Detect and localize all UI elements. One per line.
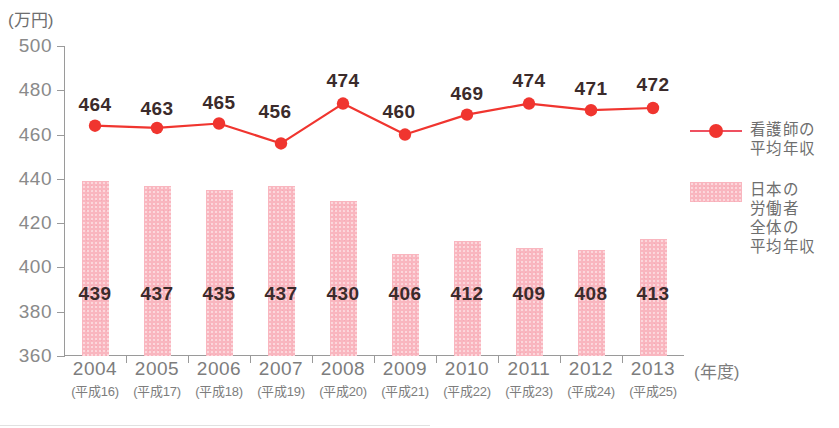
line-data-point [337, 97, 349, 109]
x-axis-category-label: 2011(平成23) [505, 358, 552, 400]
nurse-salary-chart: (万円) 360380400420440460480500 4644634654… [0, 0, 839, 428]
bar-value-label: 430 [326, 283, 359, 305]
x-axis-unit-label: (年度) [694, 358, 739, 383]
x-axis-era: (平成21) [381, 381, 428, 400]
y-axis-tick-label: 380 [6, 301, 52, 323]
line-data-point [89, 120, 101, 132]
x-axis-year: 2006 [195, 358, 242, 380]
x-axis-year: 2008 [319, 358, 366, 380]
line-value-label: 471 [574, 78, 607, 100]
x-axis-year: 2010 [443, 358, 490, 380]
x-axis-category-label: 2006(平成18) [195, 358, 242, 400]
scan-edge-line [0, 425, 430, 426]
y-axis-tick-mark [57, 356, 65, 357]
bar-value-label: 408 [574, 283, 607, 305]
line-data-point [151, 122, 163, 134]
chart-legend: 看護師の 平均年収 日本の 労働者 全体の 平均年収 [690, 120, 839, 278]
x-axis-year: 2013 [629, 358, 676, 380]
line-data-point [399, 128, 411, 140]
legend-bar-swatch-icon [690, 180, 742, 202]
x-axis-era: (平成23) [505, 381, 552, 400]
x-axis-category-label: 2004(平成16) [71, 358, 118, 400]
x-axis-era: (平成22) [443, 381, 490, 400]
x-axis-era: (平成20) [319, 381, 366, 400]
legend-label-all-workers-salary: 日本の 労働者 全体の 平均年収 [750, 180, 815, 256]
x-axis-year: 2004 [71, 358, 118, 380]
line-value-label: 465 [202, 92, 235, 114]
line-value-label: 460 [382, 101, 415, 123]
x-axis-era: (平成19) [257, 381, 304, 400]
y-axis-tick-label: 420 [6, 212, 52, 234]
y-axis-tick-label: 400 [6, 256, 52, 278]
line-value-label: 469 [450, 83, 483, 105]
bar-value-label: 437 [264, 283, 297, 305]
x-axis-category-label: 2008(平成20) [319, 358, 366, 400]
line-value-label: 472 [636, 74, 669, 96]
x-axis-category-label: 2007(平成19) [257, 358, 304, 400]
legend-line-marker-icon [690, 120, 742, 142]
line-value-label: 474 [512, 70, 545, 92]
legend-label-nurse-salary: 看護師の 平均年収 [750, 120, 815, 158]
x-axis-era: (平成25) [629, 381, 676, 400]
plot-area: 464463465456474460469474471472 439437435… [64, 46, 684, 356]
bar-value-label: 413 [636, 283, 669, 305]
x-axis-category-label: 2009(平成21) [381, 358, 428, 400]
line-value-label: 463 [140, 98, 173, 120]
legend-item-all-workers-salary: 日本の 労働者 全体の 平均年収 [690, 180, 839, 256]
bar-value-label: 437 [140, 283, 173, 305]
x-axis-category-label: 2012(平成24) [567, 358, 614, 400]
x-axis-category-label: 2013(平成25) [629, 358, 676, 400]
y-axis-tick-label: 360 [6, 345, 52, 367]
y-axis-tick-label: 440 [6, 168, 52, 190]
x-axis-category-label: 2005(平成17) [133, 358, 180, 400]
bar-value-label: 435 [202, 283, 235, 305]
line-data-point [213, 117, 225, 129]
line-value-label: 464 [78, 94, 111, 116]
legend-item-nurse-salary: 看護師の 平均年収 [690, 120, 839, 158]
y-axis-tick-label: 500 [6, 35, 52, 57]
line-path [95, 104, 653, 144]
x-axis-tick-labels: 2004(平成16)2005(平成17)2006(平成18)2007(平成19)… [64, 358, 684, 418]
x-axis-era: (平成17) [133, 381, 180, 400]
line-data-point [275, 137, 287, 149]
x-axis-year: 2007 [257, 358, 304, 380]
line-data-point [461, 108, 473, 120]
x-axis-year: 2005 [133, 358, 180, 380]
line-data-point [585, 104, 597, 116]
y-axis-tick-labels: 360380400420440460480500 [0, 0, 52, 428]
bar-value-label: 406 [388, 283, 421, 305]
x-axis-category-label: 2010(平成22) [443, 358, 490, 400]
bar-value-label: 409 [512, 283, 545, 305]
bar-value-label: 439 [78, 283, 111, 305]
x-axis-era: (平成24) [567, 381, 614, 400]
line-value-label: 456 [258, 101, 291, 123]
x-axis-era: (平成18) [195, 381, 242, 400]
bar-value-label: 412 [450, 283, 483, 305]
y-axis-tick-label: 460 [6, 124, 52, 146]
line-data-point [647, 102, 659, 114]
line-value-label: 474 [326, 70, 359, 92]
y-axis-tick-label: 480 [6, 79, 52, 101]
line-data-point [523, 97, 535, 109]
x-axis-era: (平成16) [71, 381, 118, 400]
x-axis-year: 2011 [505, 358, 552, 380]
x-axis-year: 2012 [567, 358, 614, 380]
x-axis-year: 2009 [381, 358, 428, 380]
